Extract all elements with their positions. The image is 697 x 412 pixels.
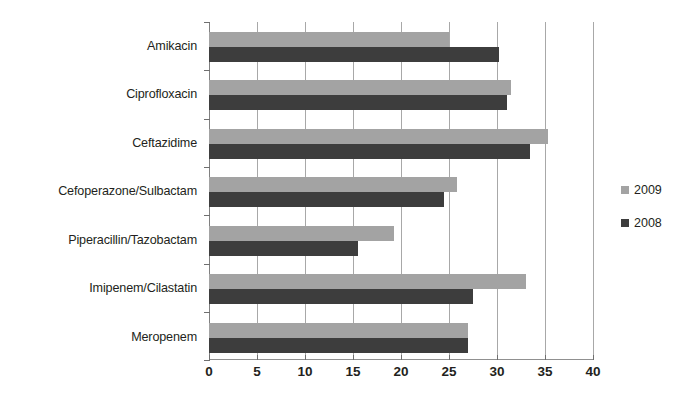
y-axis-category-labels: Amikacin Ciprofloxacin Ceftazidime Cefop…: [0, 22, 203, 360]
bar-2009-cefoperazone-sulbactam: [209, 177, 457, 192]
x-axis-label-40: 40: [585, 364, 600, 379]
legend-label-2008: 2008: [634, 216, 662, 230]
y-axis-label-imipenem-cilastatin: Imipenem/Cilastatin: [0, 281, 197, 295]
legend-item-2009: 2009: [621, 179, 691, 201]
plot-area: [209, 22, 593, 360]
bar-2009-imipenem-cilastatin: [209, 274, 526, 289]
gridline-30: [497, 22, 498, 360]
x-axis-label-30: 30: [489, 364, 504, 379]
bar-chart: Amikacin Ciprofloxacin Ceftazidime Cefop…: [0, 0, 697, 412]
y-axis-label-ciprofloxacin: Ciprofloxacin: [0, 87, 197, 101]
legend-item-2008: 2008: [621, 212, 691, 234]
x-axis-tick-labels: 0 5 10 15 20 25 30 35 40: [209, 364, 609, 388]
bar-2009-ciprofloxacin: [209, 80, 511, 95]
chart-legend: 2009 2008: [621, 179, 691, 245]
x-tick-35: [545, 355, 546, 360]
y-tick-5: [204, 264, 210, 265]
y-tick-1: [204, 70, 210, 71]
gridline-35: [545, 22, 546, 360]
x-tick-15: [353, 355, 354, 360]
x-tick-5: [257, 355, 258, 360]
legend-label-2009: 2009: [634, 183, 662, 197]
bar-2009-ceftazidime: [209, 129, 548, 144]
x-tick-40: [593, 355, 594, 360]
y-axis-label-piperacillin-tazobactam: Piperacillin/Tazobactam: [0, 233, 197, 247]
x-axis-label-10: 10: [297, 364, 312, 379]
x-axis-label-35: 35: [537, 364, 552, 379]
y-tick-3: [204, 167, 210, 168]
bar-2008-amikacin: [209, 47, 499, 62]
bar-2008-imipenem-cilastatin: [209, 289, 473, 304]
bar-2009-meropenem: [209, 323, 468, 338]
legend-swatch-2008-icon: [621, 219, 629, 227]
y-tick-0: [204, 22, 210, 23]
x-axis-label-5: 5: [253, 364, 261, 379]
x-tick-30: [497, 355, 498, 360]
bar-2008-piperacillin-tazobactam: [209, 241, 358, 256]
x-axis-label-25: 25: [441, 364, 456, 379]
y-tick-6: [204, 312, 210, 313]
bar-2009-amikacin: [209, 32, 449, 47]
y-axis-label-amikacin: Amikacin: [0, 39, 197, 53]
bar-2008-ciprofloxacin: [209, 95, 507, 110]
bar-2009-piperacillin-tazobactam: [209, 226, 394, 241]
x-tick-25: [449, 355, 450, 360]
bar-2008-ceftazidime: [209, 144, 530, 159]
y-tick-4: [204, 215, 210, 216]
x-axis-label-15: 15: [345, 364, 360, 379]
x-axis-label-0: 0: [205, 364, 213, 379]
bar-2008-meropenem: [209, 338, 468, 353]
y-axis-label-ceftazidime: Ceftazidime: [0, 136, 197, 150]
y-tick-2: [204, 119, 210, 120]
legend-swatch-2009-icon: [621, 186, 629, 194]
gridline-40: [593, 22, 594, 360]
x-tick-10: [305, 355, 306, 360]
x-tick-20: [401, 355, 402, 360]
x-axis-label-20: 20: [393, 364, 408, 379]
y-axis-label-cefoperazone-sulbactam: Cefoperazone/Sulbactam: [0, 184, 197, 198]
bar-2008-cefoperazone-sulbactam: [209, 192, 444, 207]
y-tick-7: [204, 360, 210, 361]
y-axis-label-meropenem: Meropenem: [0, 330, 197, 344]
